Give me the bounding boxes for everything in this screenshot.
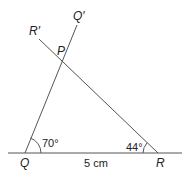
- angle-arc-q: [31, 138, 42, 153]
- line-q-qprime: [25, 25, 77, 153]
- point-label-q-prime: Q′: [73, 9, 85, 23]
- angle-label-r: 44°: [126, 141, 143, 153]
- point-label-p: P: [57, 44, 65, 58]
- point-label-r-prime: R′: [29, 24, 41, 38]
- point-label-r: R: [156, 156, 165, 170]
- triangle-diagram: 70° 44° 5 cm Q R P Q′ R′: [0, 0, 195, 175]
- point-label-q: Q: [20, 156, 29, 170]
- angle-arc-r: [143, 143, 147, 153]
- base-length-label: 5 cm: [84, 157, 108, 169]
- angle-label-q: 70°: [42, 137, 59, 149]
